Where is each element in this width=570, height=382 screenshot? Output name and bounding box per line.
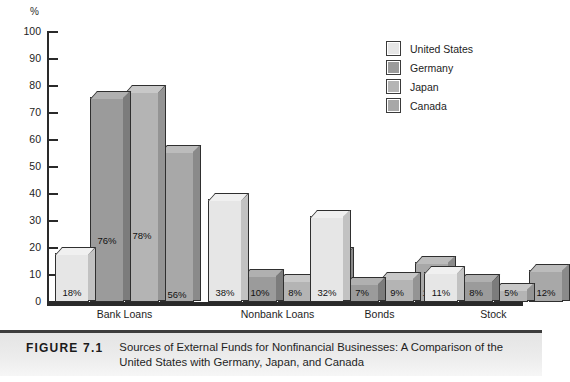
category-label: Bank Loans [55, 308, 194, 320]
y-axis-tick [47, 247, 58, 249]
y-axis-tick-label: 70 [14, 107, 41, 118]
bar-value-label: 11% [425, 288, 457, 298]
y-axis-tick-label: 0 [14, 296, 41, 307]
legend-swatch [386, 60, 401, 75]
bar-side-face [343, 210, 351, 301]
bar: 18% [55, 253, 89, 302]
legend-item: United States [386, 40, 473, 57]
y-axis-tick [47, 58, 58, 60]
legend-swatch [386, 79, 401, 94]
y-axis-tick-label: 30 [14, 215, 41, 226]
bar-side-face [123, 91, 131, 301]
y-axis-tick [47, 112, 58, 114]
y-axis-tick [47, 220, 58, 222]
legend-item: Japan [386, 78, 473, 95]
y-axis-tick [47, 193, 58, 195]
x-axis-baseline [47, 302, 523, 306]
legend-item: Germany [386, 59, 473, 76]
bar: 38% [208, 199, 242, 302]
legend-swatch [386, 98, 401, 113]
bar-side-face [158, 85, 166, 301]
category-label: Stock [424, 308, 563, 320]
bar: 32% [310, 216, 344, 302]
legend-swatch [386, 41, 401, 56]
y-axis-tick-label: 40 [14, 188, 41, 199]
figure-caption: FIGURE 7.1 Sources of External Funds for… [0, 330, 542, 376]
legend-label: United States [410, 43, 473, 55]
legend-item: Canada [386, 97, 473, 114]
bar-value-label: 18% [56, 288, 88, 298]
figure-caption-text: Sources of External Funds for Nonfinanci… [119, 340, 516, 376]
y-axis-tick-label: 90 [14, 53, 41, 64]
y-axis-tick-label: 10 [14, 269, 41, 280]
chart-legend: United StatesGermanyJapanCanada [386, 40, 473, 116]
bar-side-face [193, 145, 201, 301]
y-axis-tick-label: 60 [14, 134, 41, 145]
y-axis-tick [47, 139, 58, 141]
legend-label: Canada [410, 100, 447, 112]
legend-label: Germany [410, 62, 453, 74]
y-axis-tick-label: 50 [14, 161, 41, 172]
bar-value-label: 32% [311, 288, 343, 298]
y-axis-tick [47, 85, 58, 87]
figure-number: FIGURE 7.1 [26, 340, 103, 376]
y-axis-tick-label: 100 [14, 26, 41, 37]
legend-label: Japan [410, 81, 439, 93]
bar-side-face [241, 193, 249, 301]
bar-value-label: 76% [91, 236, 123, 246]
bar-side-face [88, 247, 96, 301]
y-axis-tick-label: 80 [14, 80, 41, 91]
y-axis-tick-label: 20 [14, 242, 41, 253]
bar: 11% [424, 272, 458, 302]
bar-value-label: 38% [209, 288, 241, 298]
y-axis-tick [47, 31, 58, 33]
y-axis-unit-label: % [30, 6, 39, 17]
y-axis-tick [47, 166, 58, 168]
